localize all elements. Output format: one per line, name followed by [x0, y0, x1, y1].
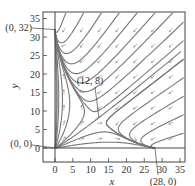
equilibrium-label: (0, 0)	[10, 138, 32, 150]
x-tick-label: 10	[86, 164, 96, 175]
ticks: 0510152025303505101520253035	[30, 13, 185, 175]
equilibrium-label: (12, 8)	[77, 75, 104, 87]
y-axis-title: y	[8, 83, 20, 89]
trajectory	[151, 133, 183, 148]
y-tick-label: 20	[30, 69, 40, 80]
equilibrium-label: (0, 32)	[5, 22, 32, 34]
x-tick-label: 20	[121, 164, 131, 175]
x-tick-label: 5	[70, 164, 75, 175]
y-tick-label: 0	[35, 143, 40, 154]
x-tick-label: 25	[139, 164, 149, 175]
x-axis-title: x	[109, 175, 115, 186]
y-tick-label: 30	[30, 32, 40, 43]
x-tick-label: 30	[157, 164, 167, 175]
x-tick-label: 35	[175, 164, 185, 175]
trajectory	[55, 13, 155, 83]
x-tick-label: 15	[104, 164, 114, 175]
trajectory	[130, 96, 184, 148]
trajectory	[55, 13, 101, 54]
trajectory	[55, 13, 119, 64]
equilibrium-label: (28, 0)	[150, 176, 177, 186]
trajectory	[141, 115, 184, 148]
trajectory	[56, 142, 156, 148]
phase-plane-diagram: 0510152025303505101520253035 x y (0, 0)(…	[0, 0, 195, 186]
trajectory	[55, 30, 184, 112]
trajectories	[55, 13, 184, 148]
y-tick-label: 5	[35, 124, 40, 135]
y-tick-label: 10	[30, 106, 40, 117]
y-tick-label: 25	[30, 50, 40, 61]
y-tick-label: 15	[30, 87, 40, 98]
x-tick-label: 0	[53, 164, 58, 175]
